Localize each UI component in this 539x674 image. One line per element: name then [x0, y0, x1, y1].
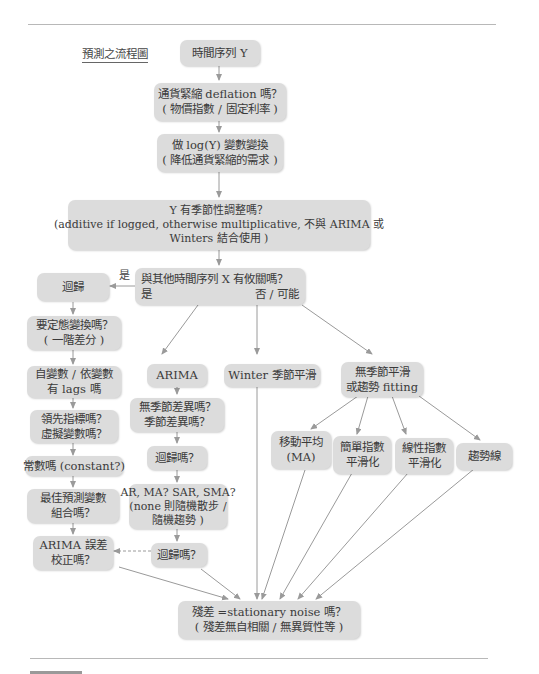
node-time-series-y[interactable]: 時間序列 Y: [180, 40, 260, 66]
node-leading-indicator[interactable]: 領先指標嗎？ 虛擬變數嗎？: [30, 410, 118, 443]
node-regression[interactable]: 迴歸: [37, 273, 109, 301]
node-nonseasonal-smoothing[interactable]: 無季節平滑 或趨勢 fitting: [341, 362, 423, 397]
node-constant[interactable]: 常數嗎 (constant?): [25, 456, 123, 476]
node-stationary-transform[interactable]: 要定態變換嗎？ ( 一階差分 ): [27, 316, 121, 350]
node-lags[interactable]: 自變數 / 依變數 有 lags 嗎: [27, 366, 121, 398]
node-ar-ma[interactable]: AR, MA? SAR, SMA? (none 則隨機散步 / 隨機趨勢 ): [129, 484, 227, 529]
node-arima[interactable]: ARIMA: [147, 364, 207, 387]
node-seasonal-difference[interactable]: 無季節差異嗎？ 季節差異嗎？: [130, 398, 224, 432]
node-linear-exp-smoothing[interactable]: 線性指數 平滑化: [395, 438, 453, 474]
node-seasonal-adjustment[interactable]: Y 有季節性調整嗎？ (additive if logged, otherwis…: [68, 200, 370, 250]
related-answers: 是 否 / 可能: [141, 287, 299, 302]
node-deflation[interactable]: 通貨緊縮 deflation 嗎？ ( 物價指數 / 固定利率 ): [154, 83, 286, 121]
node-simple-exp-smoothing[interactable]: 簡單指數 平滑化: [333, 436, 391, 474]
node-moving-average[interactable]: 移動平均 (MA): [271, 431, 331, 469]
node-trend-line[interactable]: 趨勢線: [456, 443, 512, 470]
node-regression-q2[interactable]: 迴歸嗎？: [151, 543, 207, 567]
node-log-transform[interactable]: 做 log(Y) 變數變換 ( 降低通貨緊縮的需求 ): [157, 134, 283, 172]
node-winter-smoothing[interactable]: Winter 季節平滑: [224, 364, 320, 387]
node-residual-stationary[interactable]: 殘差 =stationary noise 嗎？ ( 殘差無自相關 / 無異質性等…: [178, 601, 360, 639]
node-related-series[interactable]: 與其他時間序列 X 有攸關嗎？ 是 否 / 可能: [135, 268, 305, 305]
node-best-variables[interactable]: 最佳預測變數 組合嗎？: [27, 489, 119, 523]
yes-edge-label: 是: [119, 266, 130, 282]
node-arima-error[interactable]: ARIMA 誤差 校正嗎？: [33, 536, 113, 570]
node-regression-q1[interactable]: 迴歸嗎？: [147, 446, 207, 470]
